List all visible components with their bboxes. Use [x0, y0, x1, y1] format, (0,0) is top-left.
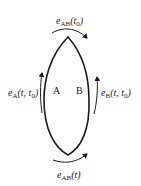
label-top: eAB(t0)	[56, 16, 83, 28]
top-arrow	[52, 29, 87, 38]
label-right: eB(t, t0)	[101, 88, 131, 100]
node-a-label: A	[53, 86, 60, 96]
node-b-label: B	[76, 86, 83, 96]
left-arrow	[41, 73, 43, 113]
right-arrow	[94, 77, 97, 114]
lens-loop	[44, 37, 89, 155]
bottom-arrow	[53, 154, 87, 162]
label-left: eA(t, t0)	[8, 88, 38, 100]
label-bottom: eAB(t)	[57, 170, 81, 182]
